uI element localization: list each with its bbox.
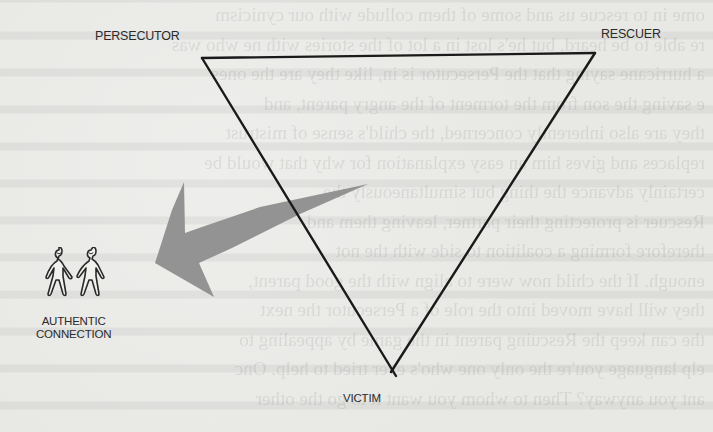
authentic-connection-label: AUTHENTIC CONNECTION (36, 315, 111, 341)
triangle-edge-top (202, 53, 595, 58)
authentic-label-line1: AUTHENTIC (36, 315, 111, 328)
triangle-edge-right (391, 53, 595, 372)
authentic-label-line2: CONNECTION (36, 328, 111, 341)
two-people-holding-hands-icon (44, 247, 110, 307)
drama-triangle-diagram (0, 0, 713, 432)
persecutor-label: PERSECUTOR (95, 29, 180, 43)
victim-label: VICTIM (343, 392, 381, 405)
rescuer-label: RESCUER (601, 27, 661, 41)
